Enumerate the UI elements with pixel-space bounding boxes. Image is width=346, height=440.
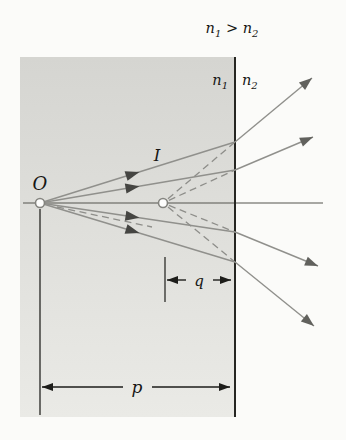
object-distance-label: p (132, 377, 143, 397)
medium2-label-part: 2 (250, 80, 257, 91)
medium2-label-part: n (242, 72, 251, 88)
condition-label-part: n (206, 20, 215, 36)
condition-label: n1 > n2 (206, 20, 259, 39)
medium1-region (20, 57, 235, 417)
medium1-label-part: n (212, 72, 221, 88)
refraction-flat-surface-figure: n1 > n2 n1 n2 O I p q (0, 0, 346, 440)
medium1-label-part: 1 (222, 80, 228, 91)
image-point-label: I (153, 146, 161, 165)
condition-label-part: 2 (251, 28, 258, 39)
figure-canvas: n1 > n2 n1 n2 O I p q (0, 0, 346, 440)
condition-label-part: n (243, 20, 252, 36)
image-distance-label: q (194, 272, 204, 290)
object-point (36, 199, 45, 208)
object-point-label: O (33, 173, 48, 194)
diagram-lines-group (0, 0, 346, 440)
condition-label-part: > (221, 20, 242, 36)
image-point (159, 199, 168, 208)
